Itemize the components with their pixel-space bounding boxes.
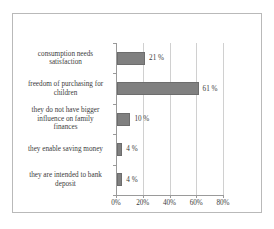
category-label-row: they are intended to bank deposit xyxy=(15,165,116,195)
bar-row: 61 % xyxy=(117,73,223,103)
bar-series: 21 % 61 % 10 % 4 % 4 % xyxy=(117,43,223,195)
bar-4 xyxy=(117,173,122,186)
category-tick xyxy=(113,165,116,166)
bar-0 xyxy=(117,52,145,65)
bar-value-4: 4 % xyxy=(126,176,137,184)
bar-value-2: 10 % xyxy=(134,115,149,123)
tick-label-80: 80% xyxy=(216,199,229,207)
category-label-2-line-0: they do not have bigger xyxy=(32,106,100,114)
category-label-row: consumption needs satisfaction xyxy=(15,43,116,73)
category-tick xyxy=(113,104,116,105)
plot-area: 21 % 61 % 10 % 4 % 4 % 0 xyxy=(116,43,223,195)
bar-3 xyxy=(117,143,122,156)
category-label-1-line-0: freedom of purchasing for xyxy=(28,80,103,88)
bar-1 xyxy=(117,82,199,95)
category-label-4-line-0: they are intended to bank xyxy=(29,171,102,179)
category-axis-labels: consumption needs satisfaction freedom o… xyxy=(15,43,116,195)
tick-80 xyxy=(223,195,224,198)
category-label-2-line-2: finances xyxy=(54,123,78,131)
tick-40 xyxy=(170,195,171,198)
category-label-4-line-1: deposit xyxy=(55,180,76,188)
bar-value-3: 4 % xyxy=(126,145,137,153)
category-label-row: they enable saving money xyxy=(15,134,116,164)
category-label-0: consumption needs satisfaction xyxy=(36,50,95,67)
category-tick xyxy=(113,195,116,196)
tick-label-40: 40% xyxy=(163,199,176,207)
category-label-1: freedom of purchasing for children xyxy=(26,80,105,97)
category-label-1-line-1: children xyxy=(54,89,78,97)
bar-chart: consumption needs satisfaction freedom o… xyxy=(13,14,261,212)
bar-value-0: 21 % xyxy=(149,54,164,62)
bar-value-1: 61 % xyxy=(203,85,218,93)
category-tick xyxy=(113,73,116,74)
category-label-0-line-0: consumption needs xyxy=(38,50,93,58)
category-label-4: they are intended to bank deposit xyxy=(27,171,104,188)
category-label-2-line-1: influence on family xyxy=(37,115,93,123)
tick-0 xyxy=(116,195,117,198)
bar-row: 21 % xyxy=(117,43,223,73)
category-tick xyxy=(113,43,116,44)
category-label-2: they do not have bigger influence on fam… xyxy=(30,106,102,132)
chart-figure-frame: consumption needs satisfaction freedom o… xyxy=(12,13,262,213)
tick-60 xyxy=(196,195,197,198)
bar-2 xyxy=(117,113,130,126)
category-label-0-line-1: satisfaction xyxy=(49,58,82,66)
category-label-row: they do not have bigger influence on fam… xyxy=(15,104,116,134)
category-tick xyxy=(113,134,116,135)
tick-label-60: 60% xyxy=(190,199,203,207)
bar-row: 10 % xyxy=(117,104,223,134)
category-label-row: freedom of purchasing for children xyxy=(15,73,116,103)
gridline-80 xyxy=(223,43,224,195)
bar-row: 4 % xyxy=(117,165,223,195)
bar-row: 4 % xyxy=(117,134,223,164)
tick-label-0: 0% xyxy=(111,199,121,207)
tick-label-20: 20% xyxy=(136,199,149,207)
category-label-3: they enable saving money xyxy=(26,145,105,154)
tick-20 xyxy=(143,195,144,198)
category-label-3-line-0: they enable saving money xyxy=(28,145,103,153)
